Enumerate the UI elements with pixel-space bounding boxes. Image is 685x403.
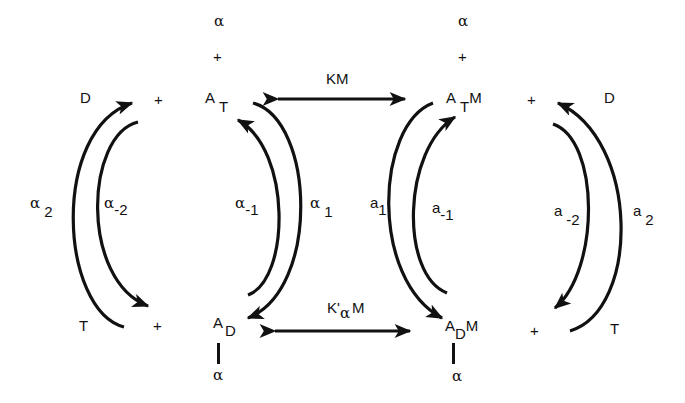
plus-right-bottom: + bbox=[530, 323, 539, 338]
label-Kprime-alpha-M: K'αM bbox=[327, 300, 365, 316]
species-A-TM: ATM bbox=[446, 90, 482, 105]
plus-left-bottom: + bbox=[153, 318, 162, 333]
A-T-base: A bbox=[205, 89, 215, 106]
alpha-top-left: α bbox=[214, 14, 224, 29]
species-A-DM: ADM bbox=[445, 318, 478, 333]
rate-alpha-1: α1 bbox=[310, 195, 332, 211]
plus-top-right: + bbox=[458, 49, 467, 64]
bond-A-DM-alpha bbox=[452, 343, 455, 364]
bond-A-D-alpha bbox=[217, 343, 220, 364]
label-KM: KM bbox=[326, 71, 349, 86]
plus-left-top: + bbox=[154, 92, 163, 107]
plus-right-top: + bbox=[527, 92, 536, 107]
A-TM-suffix: M bbox=[469, 89, 482, 106]
species-T-right: T bbox=[610, 321, 619, 336]
reaction-arrows bbox=[0, 0, 685, 403]
rate-alpha-minus-2: α-2 bbox=[104, 195, 127, 211]
A-TM-sub: T bbox=[460, 98, 469, 115]
rate-alpha-minus-1: α-1 bbox=[235, 195, 258, 211]
rate-a-2: a2 bbox=[633, 203, 654, 218]
species-D-right: D bbox=[604, 90, 615, 105]
species-A-T: AT bbox=[205, 90, 228, 105]
species-D-left: D bbox=[80, 90, 91, 105]
rate-alpha-2: α2 bbox=[30, 195, 52, 211]
plus-top-left: + bbox=[213, 49, 222, 64]
species-A-D: AD bbox=[213, 315, 236, 330]
A-T-sub: T bbox=[219, 98, 228, 115]
A-TM-base: A bbox=[446, 89, 456, 106]
alpha-bottom-right: α bbox=[452, 369, 462, 384]
alpha-top-right: α bbox=[458, 14, 468, 29]
alpha-bottom-left: α bbox=[213, 368, 223, 383]
rate-a-1: a1 bbox=[370, 195, 387, 210]
rate-a-minus-2: a-2 bbox=[554, 203, 580, 218]
rate-a-minus-1: a-1 bbox=[432, 200, 454, 215]
species-T-left: T bbox=[79, 318, 88, 333]
